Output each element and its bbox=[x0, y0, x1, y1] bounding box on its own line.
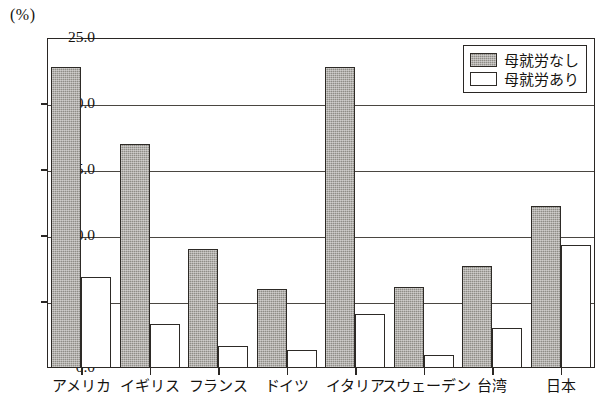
bar bbox=[531, 206, 561, 368]
bar-group bbox=[394, 38, 454, 368]
legend-swatch-light-icon bbox=[470, 72, 497, 86]
bar bbox=[188, 249, 218, 368]
x-axis-label-7: 日本 bbox=[519, 374, 604, 395]
bar bbox=[325, 67, 355, 368]
bar bbox=[51, 67, 81, 368]
bar bbox=[257, 289, 287, 368]
legend-swatch-dark-icon bbox=[470, 53, 497, 67]
bar bbox=[462, 266, 492, 368]
bar bbox=[492, 328, 522, 368]
bar bbox=[150, 324, 180, 368]
bar-group bbox=[51, 38, 111, 368]
bar bbox=[120, 144, 150, 368]
chart-legend: 母就労なし 母就労あり bbox=[463, 45, 587, 93]
bar bbox=[355, 314, 385, 368]
bar-group bbox=[257, 38, 317, 368]
legend-item-0: 母就労なし bbox=[470, 50, 579, 69]
bar-group bbox=[325, 38, 385, 368]
bar bbox=[394, 287, 424, 368]
legend-label-0: 母就労なし bbox=[504, 49, 579, 70]
bar bbox=[561, 245, 591, 368]
bar bbox=[287, 350, 317, 368]
bar-group bbox=[188, 38, 248, 368]
bar bbox=[424, 355, 454, 368]
bar bbox=[81, 277, 111, 368]
bar-chart-figure: (%) 0.05.010.015.020.025.0 アメリカイギリスフランスド… bbox=[0, 0, 609, 410]
legend-label-1: 母就労あり bbox=[504, 68, 579, 89]
bar bbox=[218, 346, 248, 368]
legend-item-1: 母就労あり bbox=[470, 69, 579, 88]
bar-group bbox=[120, 38, 180, 368]
